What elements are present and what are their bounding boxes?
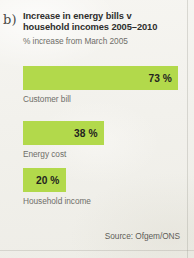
bar-value-customer-bill: 73 %	[148, 73, 172, 84]
page-rule-right	[187, 0, 188, 258]
bar-value-household-income: 20 %	[36, 175, 60, 186]
bar-value-energy-cost: 38 %	[74, 128, 98, 139]
source-note: Source: Ofgem/ONS	[105, 231, 180, 241]
bar-household-income: 20 %	[23, 168, 66, 192]
bar-group-household-income: 20 % Household income	[23, 168, 91, 206]
chart-figure: b) Increase in energy bills v household …	[0, 0, 194, 258]
bar-energy-cost: 38 %	[23, 121, 104, 145]
bar-group-customer-bill: 73 % Customer bill	[23, 66, 178, 104]
bar-customer-bill: 73 %	[23, 66, 178, 90]
bar-label-customer-bill: Customer bill	[23, 94, 178, 104]
bar-group-energy-cost: 38 % Energy cost	[23, 121, 104, 159]
bar-label-household-income: Household income	[23, 196, 91, 206]
bar-series: 73 % Customer bill 38 % Energy cost 20 %…	[0, 0, 194, 258]
bar-label-energy-cost: Energy cost	[23, 149, 104, 159]
page-rule-bottom	[0, 250, 194, 251]
